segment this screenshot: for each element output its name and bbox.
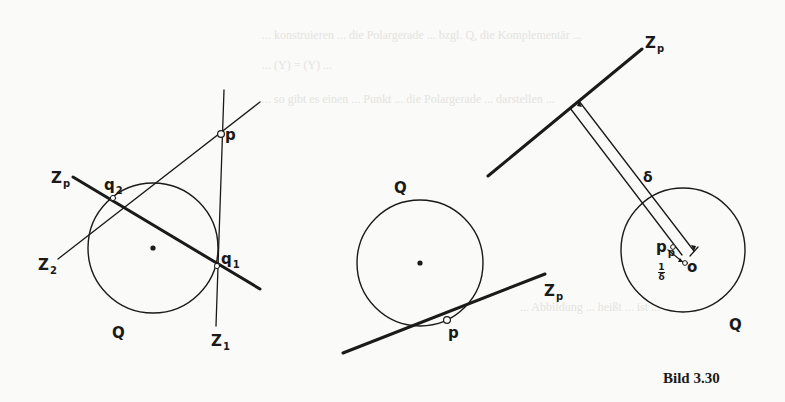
tangent-z1 [216,90,224,326]
figure-caption: Bild 3.30 [663,370,720,387]
right-circle-Q [621,188,745,312]
label-zp-right: Zp [645,36,664,51]
figure-canvas: ... konstruieren ... die Polargerade ...… [0,0,785,402]
label-z2: Z2 [38,258,57,273]
label-pp: pp [656,240,675,255]
perpendicular-line-1 [570,108,682,255]
point-q1 [214,263,219,268]
label-q2: q2 [104,178,123,193]
point-p-middle [444,317,451,324]
right-figure [488,49,745,312]
perpendicular-line-2 [579,101,694,251]
label-p-middle: p [448,326,459,341]
label-Q-left: Q [112,326,125,341]
label-delta: δ [643,170,653,184]
point-q2 [110,195,115,200]
middle-figure [343,200,545,353]
fraction-numerator: 1 [658,263,665,271]
label-q1: q1 [221,252,240,267]
polar-line-zp-middle [343,274,545,353]
point-p [218,131,225,138]
label-zp-left: Zp [51,171,70,186]
middle-circle-center [417,260,422,265]
label-fraction-1-over-delta: 1 δ [658,263,665,281]
polar-line-zp-right [488,49,642,176]
label-Q-right: Q [729,318,742,333]
label-z1: Z1 [211,334,230,349]
fraction-denominator: δ [658,273,665,281]
label-p: p [225,128,236,143]
label-o: o [687,260,697,275]
polar-line-zp [73,177,260,289]
label-Q-middle: Q [394,181,407,196]
left-circle-center [150,245,155,250]
label-zp-middle: Zp [544,284,563,299]
